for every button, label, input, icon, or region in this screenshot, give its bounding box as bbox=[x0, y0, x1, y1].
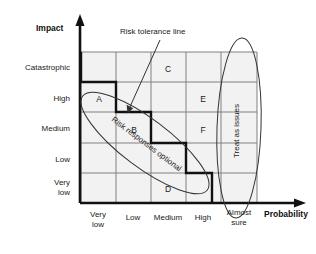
y-tick-medium: Medium bbox=[42, 124, 71, 133]
cell-label-A: A bbox=[96, 94, 102, 104]
x-tick-very-low-line2: low bbox=[92, 220, 104, 229]
risk-tolerance-line-label: Risk tolerance line bbox=[120, 27, 186, 36]
y-tick-very-low-line2: low bbox=[58, 188, 70, 197]
y-tick-catastrophic: Catastrophic bbox=[25, 63, 70, 72]
x-tick-very-low-line1: Very bbox=[90, 210, 106, 219]
x-tick-high: High bbox=[195, 213, 211, 222]
y-tick-very-low-line1: Very bbox=[54, 178, 70, 187]
risk-matrix-diagram: Impact Probability Catastrophic High Med… bbox=[0, 0, 316, 254]
matrix-grid bbox=[81, 52, 257, 203]
cell-label-F: F bbox=[200, 125, 205, 135]
x-tick-medium: Medium bbox=[154, 213, 183, 222]
x-axis-title: Probability bbox=[264, 209, 308, 219]
cell-label-D: D bbox=[165, 184, 171, 194]
y-tick-high: High bbox=[54, 94, 70, 103]
x-tick-very-low: Very low bbox=[90, 210, 106, 229]
x-tick-low: Low bbox=[126, 213, 141, 222]
x-tick-almost-sure-line1: Almost bbox=[227, 208, 252, 217]
x-tick-almost-sure-line2: sure bbox=[231, 218, 247, 227]
treat-as-issues-label: Treat as issues bbox=[232, 104, 241, 158]
grid-fill bbox=[81, 52, 257, 203]
cell-label-C: C bbox=[165, 64, 171, 74]
cell-label-E: E bbox=[200, 94, 206, 104]
y-axis-title: Impact bbox=[36, 23, 64, 33]
y-tick-low: Low bbox=[55, 155, 70, 164]
